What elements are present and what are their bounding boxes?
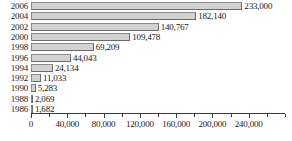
bar-1996[interactable] xyxy=(31,54,71,62)
x-axis-tick xyxy=(158,114,159,117)
bar-1994[interactable] xyxy=(31,64,53,72)
x-axis-tick xyxy=(176,114,177,118)
bar-1992[interactable] xyxy=(31,74,41,82)
x-axis-tick xyxy=(267,114,268,117)
x-axis-tick-label: 40,000 xyxy=(56,119,80,130)
x-axis-tick xyxy=(285,114,286,117)
x-axis-tick xyxy=(231,114,232,117)
x-axis-tick xyxy=(104,114,105,118)
bar-chart: 2006233,0002004182,1402002140,7672000109… xyxy=(0,0,292,141)
x-axis-tick xyxy=(122,114,123,117)
bar-2002[interactable] xyxy=(31,23,159,31)
bar-2000[interactable] xyxy=(31,33,130,41)
bar-2006[interactable] xyxy=(31,2,242,10)
bar-1986[interactable] xyxy=(31,105,33,113)
x-axis-tick xyxy=(249,114,250,118)
bar-1998[interactable] xyxy=(31,43,94,51)
x-axis-tick-label: 160,000 xyxy=(162,119,190,130)
x-axis: 040,00080,000120,000160,000200,000240,00… xyxy=(0,113,292,141)
x-axis-tick-label: 120,000 xyxy=(126,119,154,130)
x-axis-tick xyxy=(31,114,32,118)
x-axis-tick-label: 80,000 xyxy=(92,119,116,130)
bar-1988[interactable] xyxy=(31,95,33,103)
x-axis-tick xyxy=(194,114,195,117)
x-axis-tick xyxy=(212,114,213,118)
x-axis-tick-label: 200,000 xyxy=(198,119,226,130)
bar-1990[interactable] xyxy=(31,84,36,92)
x-axis-tick xyxy=(85,114,86,117)
bar-2004[interactable] xyxy=(31,12,196,20)
x-axis-tick xyxy=(140,114,141,118)
x-axis-tick-label: 240,000 xyxy=(235,119,263,130)
x-axis-tick xyxy=(49,114,50,117)
x-axis-tick-label: 0 xyxy=(29,119,33,130)
chart-plot-area: 2006233,0002004182,1402002140,7672000109… xyxy=(0,0,292,113)
x-axis-tick xyxy=(67,114,68,118)
